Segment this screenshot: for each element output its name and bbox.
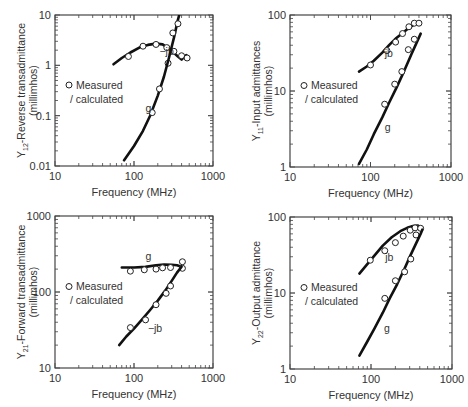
measured-point [156, 86, 162, 92]
measured-point [416, 20, 422, 26]
measured-point [168, 265, 174, 271]
measured-point [153, 266, 159, 272]
measured-point [184, 55, 190, 61]
x-axis-label: Frequency (MHz) [329, 389, 414, 401]
y-tick-label: 1 [280, 161, 286, 173]
legend-measured: Measured [311, 281, 358, 293]
legend-calculated: / calculated [305, 93, 358, 105]
measured-point [160, 265, 166, 271]
measured-point [163, 290, 169, 296]
measured-point [408, 256, 414, 262]
measured-point [382, 101, 388, 107]
measured-point [400, 233, 406, 239]
legend-calculated: / calculated [70, 93, 123, 105]
x-tick-label: 1000 [201, 372, 225, 384]
x-tick-label: 1000 [440, 373, 464, 385]
legend-measured: Measured [76, 79, 123, 91]
y-axis-units: (millimhos) [27, 267, 39, 318]
measured-point [382, 295, 388, 301]
legend-marker-icon [66, 82, 72, 88]
x-tick-label: 100 [361, 171, 379, 183]
measured-point [127, 268, 133, 274]
x-tick-label: 1000 [201, 170, 225, 182]
legend-calculated: / calculated [305, 295, 358, 307]
measured-point [127, 325, 133, 331]
measured-point [392, 278, 398, 284]
measured-point [168, 283, 174, 289]
y-tick-label: 10 [39, 9, 51, 21]
curve-label: g [146, 102, 152, 114]
figure: 1010010000.010.1110Frequency (MHz)Y12-Re… [0, 0, 468, 407]
measured-point [393, 39, 399, 45]
panel-y21-forward-transadmittance: 101001000101001000Frequency (MHz)Y21-For… [15, 210, 225, 400]
measured-point [368, 62, 374, 68]
curve-label: jb [384, 47, 393, 59]
measured-point [153, 41, 159, 47]
legend-marker-icon [301, 83, 307, 89]
measured-point [405, 47, 411, 53]
panel-y12-reverse-transadmittance: 1010010000.010.1110Frequency (MHz)Y12-Re… [15, 9, 225, 198]
measured-point [141, 267, 147, 273]
curve-label: g [146, 250, 152, 262]
measured-point [400, 31, 406, 37]
x-axis-label: Frequency (MHz) [92, 186, 177, 198]
y-tick-label: 100 [268, 9, 286, 21]
y-tick-label: 100 [268, 211, 286, 223]
y-tick-label: 10 [274, 85, 286, 97]
x-tick-label: 100 [125, 170, 143, 182]
y-tick-label: 10 [39, 362, 51, 374]
legend-measured: Measured [76, 280, 123, 292]
x-axis-label: Frequency (MHz) [92, 388, 177, 400]
curve-label: g [384, 322, 390, 334]
measured-point [406, 24, 412, 30]
plot-frame [55, 15, 213, 166]
y-axis-units: (millimhos) [262, 66, 274, 117]
y-tick-label: 1 [280, 363, 286, 375]
legend-marker-icon [66, 284, 72, 290]
y-tick-label: 10 [274, 287, 286, 299]
measured-point [140, 43, 146, 49]
panel-y11-input-admittance: 101001000110100Frequency (MHz)Y11-Input … [250, 9, 463, 199]
measured-point [399, 69, 405, 75]
measured-point [125, 53, 131, 59]
x-tick-label: 100 [362, 373, 380, 385]
y-tick-label: 1000 [27, 210, 51, 222]
x-tick-label: 1000 [439, 171, 463, 183]
y-axis-units: (millimhos) [262, 268, 274, 319]
measured-point [175, 21, 181, 27]
measured-point [392, 240, 398, 246]
measured-point [170, 30, 176, 36]
panel-y22-output-admittance: 101001000110100Frequency (MHz)Y22-Output… [250, 211, 464, 401]
curve-label: g [385, 121, 391, 133]
measured-point [367, 257, 373, 263]
plot-frame [290, 217, 452, 369]
legend-calculated: / calculated [70, 294, 123, 306]
curve-label: jb [384, 251, 393, 263]
measured-point [392, 81, 398, 87]
plot-frame [55, 216, 213, 368]
x-axis-label: Frequency (MHz) [328, 187, 413, 199]
legend-marker-icon [301, 285, 307, 291]
x-tick-label: 100 [125, 372, 143, 384]
legend-measured: Measured [311, 79, 358, 91]
measured-point [402, 269, 408, 275]
measured-point [179, 259, 185, 265]
curve-label: −jb [148, 322, 162, 334]
measured-point [411, 36, 417, 42]
calculated-curve-g [359, 230, 422, 356]
y-axis-units: (millimhos) [27, 65, 39, 116]
measured-point [153, 302, 159, 308]
y-tick-label: 1 [45, 59, 51, 71]
y-tick-label: 0.01 [30, 160, 51, 172]
